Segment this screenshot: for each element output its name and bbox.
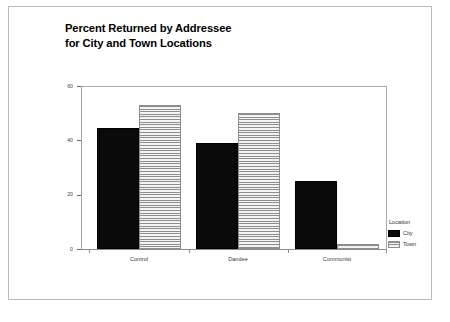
bar-city-communist xyxy=(295,181,337,249)
x-axis-category-label-dandee: Dandee xyxy=(208,256,268,263)
legend-item-town[interactable]: Town xyxy=(388,239,450,249)
x-axis-tick-mark-1 xyxy=(189,250,190,253)
x-axis-tick-mark-2 xyxy=(288,250,289,253)
y-axis-tick-label-20: 20 xyxy=(43,191,73,197)
y-axis-tick-label-60: 60 xyxy=(43,83,73,89)
y-axis-tick-label-0: 0 xyxy=(43,246,73,252)
legend-swatch-town-icon xyxy=(388,241,400,248)
x-axis-category-label-control: Control xyxy=(109,256,169,263)
chart-title: Percent Returned by Addressee for City a… xyxy=(65,21,395,50)
bar-city-dandee xyxy=(196,143,238,249)
legend-item-city[interactable]: City xyxy=(388,228,450,238)
bar-town-dandee xyxy=(238,113,280,249)
figure-frame: Percent Returned by Addressee for City a… xyxy=(8,6,432,300)
legend-swatch-city-icon xyxy=(388,230,400,237)
y-axis-tick-label-40: 40 xyxy=(43,137,73,143)
legend-label-town: Town xyxy=(403,240,416,248)
legend: Location City Town xyxy=(388,218,450,250)
chart-title-line-2: for City and Town Locations xyxy=(65,36,395,51)
x-axis-tick-mark-3 xyxy=(386,250,387,253)
y-axis-tick-mark-40 xyxy=(77,140,81,141)
y-axis-tick-mark-60 xyxy=(77,86,81,87)
legend-label-city: City xyxy=(403,229,413,237)
x-axis-tick-mark-0 xyxy=(89,250,90,253)
bar-town-communist xyxy=(337,244,379,249)
y-axis-tick-mark-0 xyxy=(77,249,81,250)
y-axis-tick-mark-20 xyxy=(77,195,81,196)
chart-title-line-1: Percent Returned by Addressee xyxy=(65,21,395,36)
bar-town-control xyxy=(139,105,181,249)
x-axis-category-label-communist: Communist xyxy=(307,256,367,263)
bar-city-control xyxy=(97,128,139,249)
legend-title: Location xyxy=(388,218,450,226)
